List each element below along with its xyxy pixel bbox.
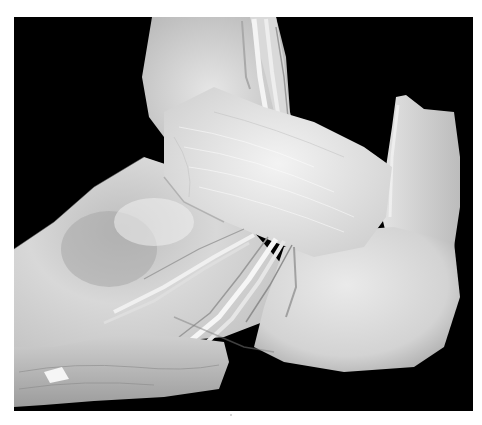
heel-pad — [254, 227, 460, 372]
specimen-illustration — [14, 17, 473, 411]
specimen-photograph — [14, 17, 473, 411]
scan-speck — [230, 414, 232, 416]
